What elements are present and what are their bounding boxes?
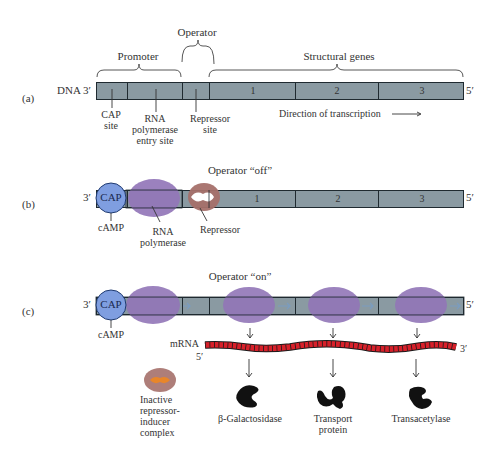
down-arrow-icon	[246, 359, 252, 377]
down-arrow-icon	[247, 328, 253, 338]
rna-polymerase-shape	[308, 287, 360, 323]
mrna-5prime-label: 5′	[196, 351, 203, 362]
panel-c-shapes-svg	[0, 0, 495, 452]
camp-label: cAMP	[98, 329, 124, 340]
down-arrow-icon	[330, 328, 336, 338]
mrna-3prime-label: 3′	[460, 343, 467, 354]
mrna-label: mRNA	[170, 338, 199, 349]
cap-label: CAP	[100, 299, 121, 310]
transcription-arrow-icon	[278, 303, 290, 309]
down-arrow-icon	[413, 359, 419, 377]
transacetylase-icon	[409, 387, 432, 409]
down-arrow-icon	[414, 328, 420, 338]
inactive-repressor-inducer-complex-label: Inactive repressor- inducer complex	[140, 394, 180, 438]
transcription-arrow-icon	[183, 303, 190, 309]
rna-polymerase-shape	[395, 287, 447, 323]
beta-galactosidase-label: β-Galactosidase	[218, 413, 282, 424]
rna-polymerase-shape	[126, 286, 180, 324]
beta-galactosidase-icon	[236, 385, 258, 407]
transport-protein-icon	[317, 386, 346, 409]
transacetylase-label: Transacetylase	[391, 413, 450, 424]
transport-protein-label: Transport protein	[314, 413, 353, 435]
down-arrow-icon	[330, 359, 336, 377]
rna-polymerase-shape	[223, 287, 275, 323]
transcription-arrow-icon	[362, 303, 373, 309]
transcription-arrow-icon	[450, 303, 460, 309]
